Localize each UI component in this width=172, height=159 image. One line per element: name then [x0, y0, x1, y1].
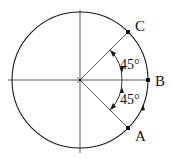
- circle-diagram: C B A 45° 45°: [0, 0, 172, 159]
- label-a: A: [135, 128, 146, 144]
- label-c: C: [135, 18, 145, 34]
- angle-label-upper: 45°: [120, 57, 140, 72]
- point-b: [146, 78, 150, 82]
- radius-to-c: [80, 32, 128, 80]
- label-b: B: [155, 73, 165, 89]
- angle-label-lower: 45°: [120, 92, 140, 107]
- point-a: [126, 126, 130, 130]
- point-c: [126, 30, 130, 34]
